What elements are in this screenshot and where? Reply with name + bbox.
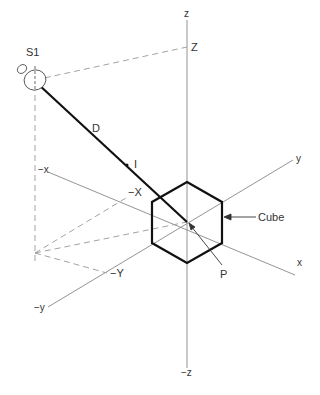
light-ray	[38, 84, 187, 222]
intensity-marker	[126, 164, 129, 167]
label-z-neg: −z	[181, 367, 192, 378]
label-y-pos: y	[296, 153, 301, 164]
label-x-neg: −x	[38, 164, 49, 175]
lighting-diagram: S1 D I z −z Z y −y x −x −X −Y Cube P	[0, 0, 320, 395]
label-y-neg: −y	[34, 302, 45, 313]
label-z-pos: z	[184, 8, 189, 19]
label-distance: D	[92, 122, 100, 134]
label-intensity: I	[134, 158, 137, 170]
label-Z-proj: Z	[191, 41, 198, 53]
label-cube: Cube	[258, 211, 284, 223]
coordinate-axes	[48, 20, 295, 368]
label-X-proj: −X	[128, 186, 142, 198]
projection-lines	[35, 47, 187, 273]
x-axis	[48, 172, 295, 275]
label-point: P	[220, 268, 227, 280]
label-source: S1	[26, 46, 39, 58]
y-axis	[48, 160, 293, 307]
label-Y-proj: −Y	[110, 267, 124, 279]
cube-arrow	[224, 214, 256, 220]
label-x-pos: x	[297, 257, 302, 268]
